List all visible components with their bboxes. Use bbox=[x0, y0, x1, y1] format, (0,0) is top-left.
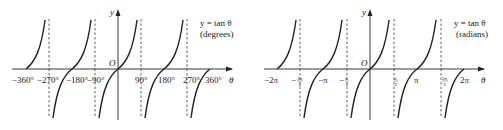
svg-text:π: π bbox=[414, 75, 419, 85]
y-axis-arrow-icon bbox=[368, 9, 373, 16]
svg-text:−: − bbox=[291, 75, 296, 85]
svg-text:2: 2 bbox=[395, 82, 398, 87]
svg-text:3π: 3π bbox=[442, 76, 448, 81]
svg-text:3π: 3π bbox=[297, 76, 303, 81]
svg-text:90°: 90° bbox=[135, 75, 148, 85]
y-axis-arrow-icon bbox=[116, 9, 121, 16]
x-axis-label: θ bbox=[229, 75, 234, 85]
origin-label: O bbox=[109, 58, 116, 68]
y-axis-label: y bbox=[361, 7, 366, 17]
chart-title: y = tan θ bbox=[200, 18, 232, 28]
x-tick-labels: −2π − 3π 2 −π − π 2 π 2 π 3π 2 2π bbox=[264, 75, 470, 87]
svg-text:−180°: −180° bbox=[66, 75, 89, 85]
svg-text:−360°: −360° bbox=[12, 75, 35, 85]
svg-text:−: − bbox=[339, 75, 344, 85]
y-axis-label: y bbox=[109, 7, 114, 17]
svg-text:−π: −π bbox=[318, 75, 328, 85]
chart-title: y = tan θ bbox=[454, 18, 486, 28]
tan-degrees-chart: y θ O y = tan θ (degrees) −360° −270° −1… bbox=[0, 0, 250, 130]
tan-radians-chart: y θ O y = tan θ (radians) −2π − 3π 2 −π … bbox=[250, 0, 503, 130]
x-tick-labels: −360° −270° −180° −90° 90° 180° 270° 360… bbox=[12, 75, 223, 85]
svg-text:−90°: −90° bbox=[87, 75, 105, 85]
chart-subtitle: (degrees) bbox=[200, 29, 233, 39]
svg-text:2: 2 bbox=[444, 82, 447, 87]
x-axis-arrow-icon bbox=[478, 67, 485, 72]
svg-text:270°: 270° bbox=[183, 75, 201, 85]
svg-text:−270°: −270° bbox=[37, 75, 60, 85]
svg-text:π: π bbox=[394, 76, 397, 81]
svg-text:2: 2 bbox=[299, 82, 302, 87]
x-axis-label: θ bbox=[481, 75, 486, 85]
origin-label: O bbox=[361, 58, 368, 68]
x-axis-arrow-icon bbox=[226, 67, 233, 72]
svg-text:2π: 2π bbox=[460, 75, 470, 85]
svg-text:360°: 360° bbox=[205, 75, 223, 85]
svg-text:2: 2 bbox=[346, 82, 349, 87]
svg-text:−2π: −2π bbox=[264, 75, 279, 85]
svg-text:180°: 180° bbox=[158, 75, 176, 85]
svg-text:π: π bbox=[345, 76, 348, 81]
chart-subtitle: (radians) bbox=[456, 29, 488, 39]
